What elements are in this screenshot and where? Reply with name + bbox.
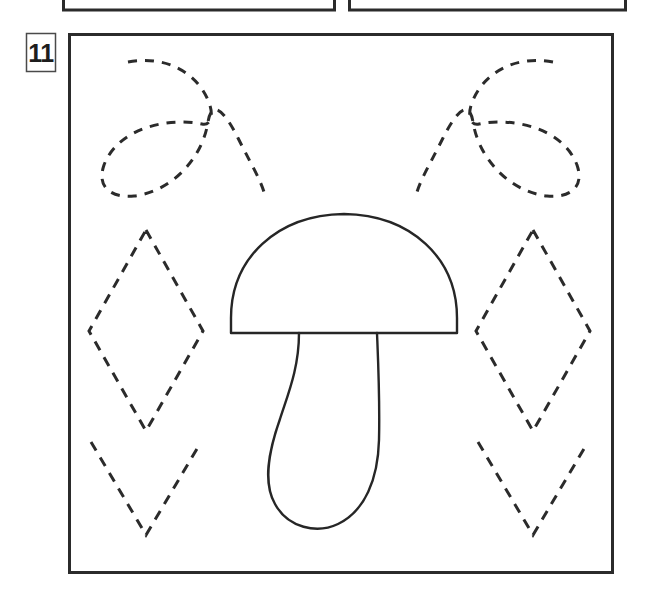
partial-box-right [350, 0, 626, 10]
dashed-tracing-loops [102, 60, 579, 196]
dashed-vee-lower-right [478, 442, 588, 535]
dashed-diamond-upper-right [476, 230, 590, 431]
dashed-tracing-diamonds [89, 230, 590, 535]
worksheet-page: 11 [0, 0, 648, 600]
dashed-diamond-upper-left [89, 230, 203, 431]
mushroom-picture [231, 214, 457, 529]
exercise-frame [70, 35, 613, 573]
partial-box-left [64, 0, 335, 10]
mushroom-cap [231, 214, 457, 333]
exercise-number-badge: 11 [27, 34, 56, 72]
mushroom-stem [268, 333, 379, 529]
worksheet-canvas: 11 [0, 0, 648, 600]
dashed-vee-lower-left [91, 442, 201, 535]
dashed-loop-left [102, 60, 265, 196]
dashed-loop-right [416, 60, 579, 196]
exercise-number-label: 11 [28, 39, 54, 67]
previous-exercise-boxes [64, 0, 626, 10]
